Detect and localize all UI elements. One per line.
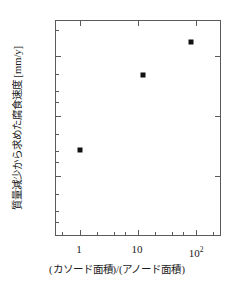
x-tick-label-100: 102: [189, 244, 204, 259]
x-tick-minor: [213, 232, 214, 235]
y-tick-minor: [56, 211, 59, 212]
y-tick-major-0.01-right: [215, 176, 220, 177]
y-tick-minor: [56, 30, 59, 31]
data-point: [141, 73, 146, 78]
x-tick-label-10: 10: [132, 244, 143, 255]
data-point: [78, 148, 83, 153]
y-tick-major-0.1: [56, 116, 61, 117]
x-tick-label-100-exponent: 2: [200, 245, 204, 254]
y-tick-minor: [56, 162, 59, 163]
x-tick-major-1: [80, 230, 81, 235]
y-tick-minor: [56, 194, 59, 195]
y-axis-title: 質量減少から求めた腐食速度 [mm/y]: [12, 18, 24, 238]
y-tick-minor: [56, 74, 59, 75]
y-tick-major-1-right: [215, 56, 220, 57]
y-tick-minor: [56, 222, 59, 223]
y-tick-major-1: [56, 56, 61, 57]
x-axis-title: (カソード面積)/(アノード面積): [0, 264, 234, 276]
x-tick-minor: [97, 232, 98, 235]
y-tick-minor: [56, 102, 59, 103]
data-point: [189, 40, 194, 45]
y-tick-minor: [56, 91, 59, 92]
x-tick-major-100-top: [196, 21, 197, 26]
y-tick-major-0.01: [56, 176, 61, 177]
x-tick-minor: [172, 232, 173, 235]
y-tick-minor: [56, 134, 59, 135]
x-tick-minor: [125, 232, 126, 235]
x-tick-minor: [183, 232, 184, 235]
y-tick-minor: [56, 151, 59, 152]
x-tick-minor: [114, 232, 115, 235]
x-tick-major-100: [196, 230, 197, 235]
x-tick-major-1-top: [80, 21, 81, 26]
x-tick-minor: [62, 232, 63, 235]
y-tick-major-0.1-right: [215, 116, 220, 117]
plot-area: [55, 20, 221, 236]
x-tick-label-1: 1: [76, 244, 82, 255]
x-tick-major-10: [138, 230, 139, 235]
x-tick-minor: [155, 232, 156, 235]
x-tick-major-10-top: [138, 21, 139, 26]
corrosion-rate-scatter-figure: 1.0 0.1 0.01 0.001 1 10 102 (カソード面積)/(アノ…: [0, 0, 234, 289]
x-tick-label-100-base: 10: [189, 247, 200, 259]
